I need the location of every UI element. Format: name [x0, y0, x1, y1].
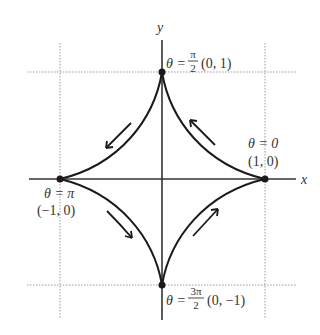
- label-top-theta: θ =: [166, 56, 186, 71]
- label-bottom: θ = 3π 2 (0, −1): [166, 285, 246, 311]
- label-left: θ = π (−1, 0): [37, 186, 76, 219]
- label-top: θ = π 2 (0, 1): [166, 48, 232, 74]
- astroid-diagram: x y θ = π 2 (0, 1): [0, 0, 320, 335]
- point-bottom: [159, 282, 166, 289]
- label-bottom-numerator: 3π: [190, 285, 202, 297]
- y-axis-label: y: [155, 20, 164, 35]
- label-bottom-coord: (0, −1): [207, 293, 246, 309]
- point-right: [262, 176, 269, 183]
- label-right: θ = 0 (1, 0): [248, 136, 279, 170]
- label-top-numerator: π: [190, 48, 196, 60]
- label-top-coord: (0, 1): [201, 56, 232, 72]
- label-top-denominator: 2: [190, 62, 196, 74]
- label-bottom-denominator: 2: [193, 299, 199, 311]
- arrow-lower-right-icon: [193, 209, 218, 236]
- point-top: [159, 69, 166, 76]
- point-left: [57, 176, 64, 183]
- label-right-coord: (1, 0): [248, 154, 279, 170]
- label-left-theta: θ = π: [44, 186, 75, 201]
- x-axis-label: x: [300, 172, 308, 187]
- arrow-upper-right-icon: [190, 120, 215, 145]
- arrow-upper-left-icon: [106, 123, 131, 148]
- label-bottom-theta: θ =: [166, 293, 186, 308]
- label-left-coord: (−1, 0): [37, 203, 76, 219]
- label-right-theta: θ = 0: [248, 136, 278, 151]
- arrow-lower-left-icon: [107, 211, 132, 238]
